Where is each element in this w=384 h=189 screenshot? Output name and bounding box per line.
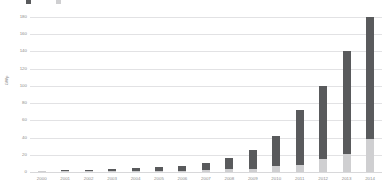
x-axis-tick-label: 2004 <box>131 177 141 181</box>
bar-group[interactable]: 2010 <box>272 17 280 172</box>
bar-stack[interactable] <box>178 166 186 172</box>
bar-segment-cumulative <box>296 110 304 165</box>
bar-segment-added <box>225 169 233 172</box>
legend-swatch-light-icon <box>56 0 61 4</box>
bar-stack[interactable] <box>343 51 351 172</box>
x-axis-tick-label: 2012 <box>318 177 328 181</box>
y-axis-title: GWp <box>4 76 9 86</box>
x-axis-tick-label: 2013 <box>342 177 352 181</box>
bar-group[interactable]: 2004 <box>132 17 140 172</box>
bar-stack[interactable] <box>225 158 233 172</box>
bar-stack[interactable] <box>108 169 116 172</box>
x-axis-tick-label: 2007 <box>201 177 211 181</box>
bar-segment-added <box>61 171 69 172</box>
bar-segment-added <box>85 171 93 172</box>
bar-segment-cumulative <box>225 158 233 170</box>
bar-stack[interactable] <box>319 86 327 172</box>
y-axis-tick-label: 20 <box>22 153 27 157</box>
bar-segment-added <box>155 171 163 172</box>
y-axis-tick-label: 60 <box>22 118 27 122</box>
bar-segment-cumulative <box>343 51 351 153</box>
bar-group[interactable]: 2012 <box>319 17 327 172</box>
bar-stack[interactable] <box>272 136 280 172</box>
bar-segment-added <box>38 171 46 172</box>
bar-stack[interactable] <box>366 17 374 172</box>
bar-segment-cumulative <box>366 17 374 139</box>
bar-segment-added <box>272 166 280 172</box>
bar-segment-cumulative <box>249 150 257 168</box>
bar-segment-added <box>202 170 210 172</box>
x-axis-tick-label: 2000 <box>37 177 47 181</box>
y-axis-tick-label: 160 <box>20 32 27 36</box>
bar-segment-added <box>108 171 116 172</box>
bar-group[interactable]: 2009 <box>249 17 257 172</box>
y-axis-tick-label: 140 <box>20 49 27 53</box>
x-axis-tick-label: 2009 <box>248 177 258 181</box>
bar-segment-added <box>132 171 140 172</box>
bar-stack[interactable] <box>132 168 140 172</box>
bar-stack[interactable] <box>61 170 69 172</box>
bar-group[interactable]: 2011 <box>296 17 304 172</box>
legend-entry-added <box>56 0 64 6</box>
bar-group[interactable]: 2006 <box>178 17 186 172</box>
bar-group[interactable]: 2007 <box>202 17 210 172</box>
x-axis-tick-label: 2014 <box>365 177 375 181</box>
bar-segment-added <box>366 139 374 172</box>
y-axis-tick-label: 80 <box>22 101 27 105</box>
bar-group[interactable]: 2005 <box>155 17 163 172</box>
bar-segment-added <box>343 154 351 172</box>
bar-group[interactable]: 2002 <box>85 17 93 172</box>
bar-segment-cumulative <box>272 136 280 166</box>
x-axis-tick-label: 2005 <box>154 177 164 181</box>
bar-group[interactable]: 2013 <box>343 17 351 172</box>
bar-group[interactable]: 2001 <box>61 17 69 172</box>
legend-swatch-dark-icon <box>26 0 31 4</box>
bar-group[interactable]: 2000 <box>38 17 46 172</box>
x-axis-tick-label: 2011 <box>295 177 304 181</box>
gridline: 0 <box>30 172 382 173</box>
bar-segment-added <box>249 169 257 172</box>
chart-legend <box>26 0 64 6</box>
bar-stack[interactable] <box>296 110 304 172</box>
bar-segment-added <box>296 165 304 172</box>
bar-group[interactable]: 2008 <box>225 17 233 172</box>
bar-stack[interactable] <box>202 163 210 172</box>
bar-segment-added <box>178 171 186 172</box>
x-axis-tick-label: 2002 <box>84 177 94 181</box>
bar-segment-cumulative <box>319 86 327 159</box>
x-axis-tick-label: 2006 <box>178 177 188 181</box>
bar-group[interactable]: 2003 <box>108 17 116 172</box>
bar-stack[interactable] <box>85 170 93 172</box>
legend-entry-cumulative <box>26 0 34 6</box>
bar-group[interactable]: 2014 <box>366 17 374 172</box>
y-axis-tick-label: 180 <box>20 15 27 19</box>
chart-container: GWp 020406080100120140160180 20002001200… <box>0 0 384 189</box>
bar-stack[interactable] <box>249 150 257 172</box>
y-axis-tick-label: 40 <box>22 135 27 139</box>
y-axis-tick-label: 0 <box>25 170 27 174</box>
x-axis-tick-label: 2001 <box>60 177 70 181</box>
bar-stack[interactable] <box>155 167 163 172</box>
bar-segment-added <box>319 159 327 172</box>
plot-area: 020406080100120140160180 200020012002200… <box>30 17 382 172</box>
x-axis-tick-label: 2010 <box>271 177 281 181</box>
bar-series: 2000200120022003200420052006200720082009… <box>30 17 382 172</box>
y-axis-tick-label: 100 <box>20 84 27 88</box>
y-axis-tick-label: 120 <box>20 66 27 70</box>
x-axis-tick-label: 2003 <box>107 177 117 181</box>
bar-stack[interactable] <box>38 171 46 172</box>
x-axis-tick-label: 2008 <box>224 177 234 181</box>
